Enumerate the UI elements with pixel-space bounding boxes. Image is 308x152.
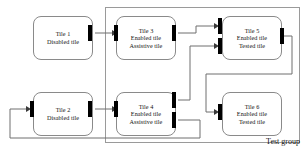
port-tile-1-output[interactable]	[88, 25, 92, 41]
connector-tile3-to-tile5	[178, 26, 217, 33]
port-tile-4-output-lower[interactable]	[172, 112, 176, 128]
tile-1-line-2: Disabled tile	[47, 38, 79, 46]
tile-4-line-1: Tile 4	[139, 103, 154, 111]
tile-6-line-1: Tile 6	[245, 103, 260, 111]
tile-3-line-2: Enabled tile	[131, 34, 161, 42]
port-tile-5-output[interactable]	[280, 28, 284, 44]
port-tile-2-input[interactable]	[30, 101, 34, 117]
connector-tile4-to-tile5	[178, 46, 217, 100]
port-tile-2-output[interactable]	[88, 101, 92, 117]
port-tile-4-input[interactable]	[114, 101, 118, 117]
port-tile-6-input[interactable]	[218, 104, 222, 120]
tile-6[interactable]: Tile 6 Enabled tile Tested tile	[222, 92, 282, 136]
tile-5-line-1: Tile 5	[245, 27, 260, 35]
tile-1-line-1: Tile 1	[56, 30, 71, 38]
tile-3-line-1: Tile 3	[139, 27, 154, 35]
tile-4-line-2: Enabled tile	[131, 110, 161, 118]
port-tile-4-output-upper[interactable]	[172, 92, 176, 108]
tile-3-line-3: Assistive tile	[130, 42, 163, 50]
port-tile-3-input[interactable]	[114, 25, 118, 41]
port-tile-5-input-lower[interactable]	[218, 38, 222, 54]
port-tile-3-output[interactable]	[172, 25, 176, 41]
tile-6-line-3: Tested tile	[239, 118, 265, 126]
diagram-canvas: Tile 1 Disabled tile Tile 2 Disabled til…	[0, 0, 308, 152]
port-tile-5-input-upper[interactable]	[218, 18, 222, 34]
tile-5-line-2: Enabled tile	[237, 34, 267, 42]
tile-2-line-2: Disabled tile	[47, 114, 79, 122]
tile-2-line-1: Tile 2	[56, 106, 71, 114]
tile-1[interactable]: Tile 1 Disabled tile	[33, 16, 93, 60]
tile-2[interactable]: Tile 2 Disabled tile	[33, 92, 93, 136]
tile-6-line-2: Enabled tile	[237, 110, 267, 118]
tile-5-line-3: Tested tile	[239, 42, 265, 50]
tile-4[interactable]: Tile 4 Enabled tile Assistive tile	[116, 92, 176, 136]
test-group-label: Test group	[266, 137, 300, 146]
tile-5[interactable]: Tile 5 Enabled tile Tested tile	[222, 16, 282, 60]
tile-4-line-3: Assistive tile	[130, 118, 163, 126]
tile-3[interactable]: Tile 3 Enabled tile Assistive tile	[116, 16, 176, 60]
